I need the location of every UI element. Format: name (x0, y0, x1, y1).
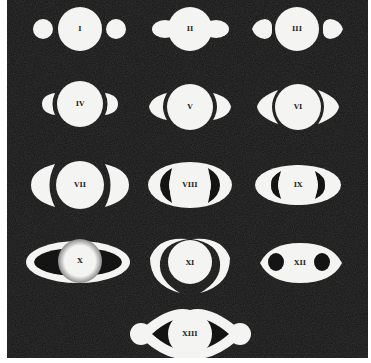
figure-ix: IX (255, 165, 341, 205)
figure-label: IX (294, 180, 303, 189)
figure-label: III (292, 24, 302, 33)
figure-label: X (77, 256, 83, 265)
saturn-drawings: I II III IV V VI VII (7, 0, 368, 358)
engraving-plate: I II III IV V VI VII (7, 0, 368, 358)
figure-label: I (78, 24, 81, 33)
figure-label: VIII (181, 180, 197, 189)
figure-label: XIII (182, 329, 197, 338)
figure-label: XII (294, 258, 306, 267)
figure-label: II (187, 24, 194, 33)
figure-label: VII (73, 180, 86, 189)
figure-label: V (186, 102, 193, 111)
figure-label: VI (293, 102, 303, 111)
figure-viii: VIII (148, 162, 232, 208)
figure-label: XI (186, 258, 195, 267)
figure-label: IV (76, 99, 85, 108)
figure-vii: VII (31, 161, 129, 209)
